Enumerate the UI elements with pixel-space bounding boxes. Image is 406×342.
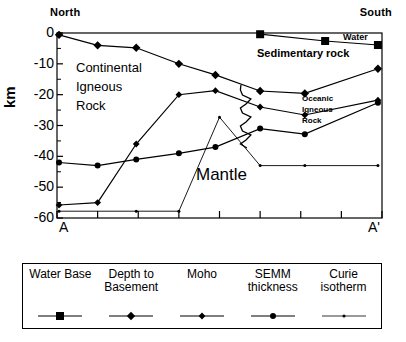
data-point-marker xyxy=(212,87,219,94)
data-point-marker xyxy=(132,44,140,52)
data-point-marker xyxy=(175,60,183,68)
data-point-marker xyxy=(376,164,379,167)
legend-item-label: Moho xyxy=(187,268,217,281)
data-point-marker xyxy=(56,312,64,320)
legend-swatch-dot xyxy=(316,310,372,322)
data-point-marker xyxy=(259,164,262,167)
legend-item[interactable]: Depth to Basement xyxy=(96,268,167,324)
data-point-marker xyxy=(321,37,329,45)
data-point-marker xyxy=(93,41,101,49)
data-point-marker xyxy=(256,87,264,95)
zigzag-fault-boundary xyxy=(240,85,251,148)
y-tick-label: -20 xyxy=(20,87,54,101)
data-point-marker xyxy=(270,313,276,319)
annotation-oceanic-igneous-rock: Oceanic Igneous Rock xyxy=(302,93,333,126)
data-point-marker xyxy=(256,30,264,38)
legend-item-label: Curie isotherm xyxy=(321,268,367,294)
data-point-marker xyxy=(342,315,345,318)
y-tick-label: -10 xyxy=(20,56,54,70)
data-point-marker xyxy=(95,163,101,169)
legend-item-label: Depth to Basement xyxy=(104,268,158,294)
legend-swatch-circle xyxy=(245,310,301,322)
annotation-sedimentary-rock: Sedimentary rock xyxy=(257,47,349,59)
data-point-marker xyxy=(211,71,219,79)
data-point-marker xyxy=(58,210,61,213)
legend-swatch-square xyxy=(32,310,88,322)
legend-item[interactable]: Water Base xyxy=(25,268,96,324)
data-point-marker xyxy=(127,312,135,320)
data-point-marker xyxy=(177,210,180,213)
data-point-marker xyxy=(218,116,221,119)
data-point-marker xyxy=(199,313,206,320)
data-point-marker xyxy=(374,65,382,73)
x-axis-end-label: A' xyxy=(368,219,380,235)
y-tick-label: -40 xyxy=(20,148,54,162)
y-tick-label: -50 xyxy=(20,179,54,193)
data-point-marker xyxy=(56,160,62,166)
y-tick-label: 0 xyxy=(20,25,54,39)
data-point-marker xyxy=(212,144,218,150)
legend-item-label: SEMM thickness xyxy=(248,268,298,294)
data-point-marker xyxy=(94,199,101,206)
data-point-marker xyxy=(303,164,306,167)
legend-swatch-diamond xyxy=(103,310,159,322)
y-tick-label: -60 xyxy=(20,210,54,224)
y-tick-label: -30 xyxy=(20,118,54,132)
data-point-marker xyxy=(135,210,138,213)
legend-swatch-diamond-small xyxy=(174,310,230,322)
annotation-continental-igneous-rock: Continental Igneous Rock xyxy=(76,58,142,115)
geologic-cross-section-figure: North South km 0-10-20-30-40-50-60 A A' … xyxy=(0,0,406,342)
x-axis-ticks xyxy=(57,211,382,218)
x-axis-start-label: A xyxy=(59,219,68,235)
legend: Water BaseDepth to BasementMohoSEMM thic… xyxy=(22,263,382,329)
legend-item[interactable]: SEMM thickness xyxy=(237,268,308,324)
data-point-marker xyxy=(375,100,381,106)
legend-item[interactable]: Moho xyxy=(167,268,238,324)
legend-item[interactable]: Curie isotherm xyxy=(308,268,379,324)
data-point-marker xyxy=(257,104,264,111)
data-point-marker xyxy=(302,131,308,137)
y-axis-ticks xyxy=(57,33,63,218)
data-point-marker xyxy=(133,156,139,162)
legend-item-label: Water Base xyxy=(29,268,91,281)
annotation-mantle: Mantle xyxy=(196,165,247,185)
data-point-marker xyxy=(176,150,182,156)
data-point-marker xyxy=(55,31,63,39)
y-tick-label-group: 0-10-20-30-40-50-60 xyxy=(16,0,54,220)
data-point-marker xyxy=(374,41,382,49)
data-point-marker xyxy=(257,126,263,132)
annotation-water: Water xyxy=(343,32,368,42)
